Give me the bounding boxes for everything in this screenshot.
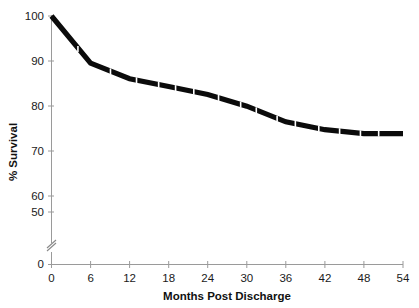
y-tick-label-0: 0: [38, 258, 44, 270]
x-tick-label-6: 6: [87, 272, 93, 284]
x-tick-label-42: 42: [319, 272, 332, 284]
censoring-marks: [78, 46, 379, 137]
y-tick-label-60: 60: [31, 190, 44, 202]
x-tick-label-18: 18: [162, 272, 175, 284]
survival-curve-line: [52, 16, 404, 134]
y-tick-label-80: 80: [31, 100, 44, 112]
x-tick-label-30: 30: [240, 272, 253, 284]
x-tick-label-0: 0: [48, 272, 54, 284]
survival-chart: 100 90 80 70 60 50 0 0 6 12 18 24 30 36 …: [0, 0, 419, 308]
y-tick-label-70: 70: [31, 145, 44, 157]
x-tick-label-54: 54: [397, 272, 410, 284]
y-tick-label-100: 100: [25, 10, 44, 22]
x-tick-label-12: 12: [123, 272, 136, 284]
x-tick-label-48: 48: [358, 272, 371, 284]
y-axis-title: % Survival: [7, 123, 19, 181]
y-tick-label-90: 90: [31, 55, 44, 67]
x-tick-label-24: 24: [201, 272, 214, 284]
chart-root: 100 90 80 70 60 50 0 0 6 12 18 24 30 36 …: [0, 0, 419, 308]
y-tick-label-50: 50: [31, 206, 44, 218]
x-tick-label-36: 36: [279, 272, 292, 284]
x-axis-title: Months Post Discharge: [163, 290, 291, 302]
